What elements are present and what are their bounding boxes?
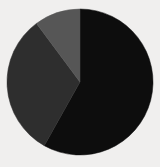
pie-slice-group — [7, 9, 153, 155]
pie-chart-figure — [0, 0, 160, 167]
pie-chart-canvas — [0, 0, 160, 167]
